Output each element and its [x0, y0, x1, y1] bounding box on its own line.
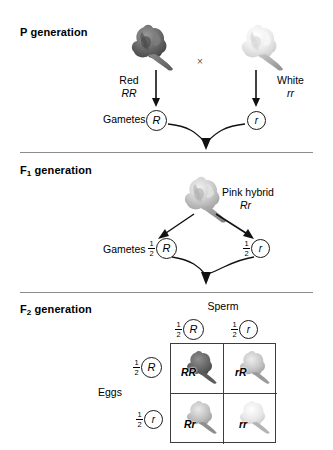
f1-gamete-r-numerator: 1 [244, 240, 248, 248]
punnett-cell-rr: rr [224, 394, 277, 444]
sperm-R-fraction: 1 2 [175, 321, 182, 339]
sperm-allele-R: R [183, 319, 204, 340]
egg-r-numerator: 1 [137, 411, 141, 419]
egg-allele-R: R [141, 357, 162, 378]
f2-heading-sub: 2 [27, 308, 32, 317]
f1-gamete-R-numerator: 1 [149, 240, 153, 248]
f1-gamete-r-group: 1 2 r [243, 239, 270, 258]
sperm-R-denominator: 2 [176, 331, 180, 339]
f2-heading-main: F [20, 303, 27, 315]
f1-gamete-r-fraction: 1 2 [243, 240, 250, 258]
eggs-label: Eggs [98, 386, 122, 398]
f1-generation-arrows [0, 152, 333, 292]
f2-generation-heading: F2 generation [20, 303, 92, 315]
egg-R-denominator: 2 [134, 369, 138, 377]
sperm-column-r-group: 1 2 r [231, 320, 258, 339]
genetics-figure: P generation [0, 0, 333, 450]
punnett-genotype-rR: rR [235, 366, 247, 378]
f2-heading-rest: generation [31, 303, 91, 315]
punnett-genotype-RR: RR [181, 366, 196, 378]
punnett-genotype-rr: rr [239, 418, 247, 430]
f1-gamete-R-fraction: 1 2 [148, 240, 155, 258]
punnett-cell-Rr: Rr [171, 394, 223, 444]
sperm-column-R-group: 1 2 R [175, 319, 204, 340]
f1-gamete-allele-R: R [156, 238, 177, 259]
p-generation-arrows [0, 0, 333, 152]
punnett-square: RR rR [170, 343, 276, 443]
f1-gametes-label: Gametes [103, 243, 146, 255]
p-gamete-allele-r: r [247, 111, 266, 130]
egg-row-r-group: 1 2 r [136, 410, 163, 429]
f1-gamete-r-denominator: 2 [244, 250, 248, 258]
sperm-r-denominator: 2 [232, 331, 236, 339]
p-gametes-label: Gametes [103, 113, 146, 125]
egg-R-fraction: 1 2 [133, 359, 140, 377]
sperm-label: Sperm [180, 300, 266, 312]
punnett-genotype-Rr: Rr [184, 418, 196, 430]
egg-r-denominator: 2 [137, 421, 141, 429]
f1-gamete-allele-r: r [251, 239, 270, 258]
egg-allele-r: r [144, 410, 163, 429]
punnett-cell-rR: rR [224, 344, 277, 393]
egg-row-R-group: 1 2 R [133, 357, 162, 378]
sperm-allele-r: r [239, 320, 258, 339]
sperm-R-numerator: 1 [176, 321, 180, 329]
p-gamete-allele-R: R [146, 110, 167, 131]
sperm-r-fraction: 1 2 [231, 321, 238, 339]
f1-gamete-R-denominator: 2 [149, 250, 153, 258]
egg-r-fraction: 1 2 [136, 411, 143, 429]
punnett-cell-RR: RR [171, 344, 223, 393]
f1-gamete-R-group: 1 2 R [148, 238, 177, 259]
egg-R-numerator: 1 [134, 359, 138, 367]
divider-f1-f2 [20, 292, 313, 293]
sperm-r-numerator: 1 [232, 321, 236, 329]
